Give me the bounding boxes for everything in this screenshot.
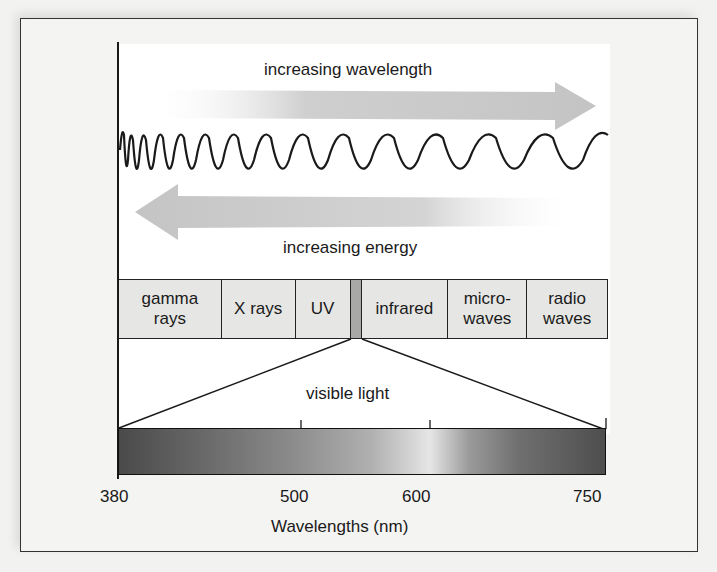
energy-arrow-icon [135,184,580,240]
tick-label-380: 380 [100,487,128,507]
band-infrared: infrared [362,280,449,338]
wavelength-arrow-label: increasing wavelength [264,60,432,80]
tick-label-750: 750 [573,487,601,507]
wavelength-arrow-icon [148,82,596,130]
band-x-rays: X rays [222,280,296,338]
wave-icon [120,132,608,169]
band-gamma-rays: gamma rays [119,280,222,338]
band-uv: UV [296,280,351,338]
spectrum-bands: gamma rays X rays UV infrared micro- wav… [119,279,608,339]
energy-arrow-label: increasing energy [283,238,417,258]
expansion-line-right [362,339,606,430]
visible-light-label: visible light [306,384,389,404]
tick-label-500: 500 [280,487,308,507]
visible-spectrum-bar [118,428,606,475]
axis-title: Wavelengths (nm) [271,517,408,537]
left-axis-line [117,42,119,479]
band-microwaves: micro- waves [448,280,527,338]
tick-label-600: 600 [402,487,430,507]
band-visible [351,280,362,338]
band-radio-waves: radio waves [527,280,607,338]
